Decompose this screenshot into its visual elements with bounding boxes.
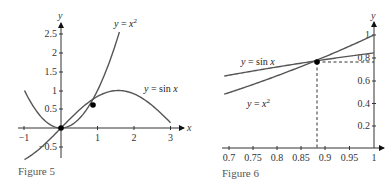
fig6-xtick-070: 0.7: [223, 152, 236, 163]
fig5-x-axis-label: x: [186, 122, 192, 133]
fig5-ytick-1: 1: [52, 85, 57, 96]
fig5-point-origin: [58, 125, 64, 131]
figures-canvas: −1 1 2 3 −0.5 0.5 1 1.5 2 2.5 x y y = x2…: [0, 0, 385, 193]
fig6-xtick-095: 0.95: [341, 152, 359, 163]
fig5-xtick-1: 1: [95, 132, 100, 143]
fig5-curve-x-squared: [25, 32, 120, 128]
fig5-label-sin: y = sin x: [143, 83, 178, 94]
fig5-ytick-2: 2: [52, 47, 57, 58]
fig5-point-intersection: [90, 102, 96, 108]
fig5-xtick-2: 2: [132, 132, 137, 143]
fig6-point-intersection: [314, 59, 320, 65]
fig6-xtick-080: 0.8: [271, 152, 284, 163]
fig6-label-sin: y = sin x: [240, 56, 275, 67]
fig6-caption: Figure 6: [222, 167, 259, 179]
fig5-ytick-05: 0.5: [45, 103, 58, 114]
figure-5: −1 1 2 3 −0.5 0.5 1 1.5 2 2.5 x y y = x2…: [18, 10, 192, 177]
fig5-caption: Figure 5: [18, 165, 55, 177]
fig6-xtick-1: 1: [372, 152, 377, 163]
fig6-y-axis-label: y: [370, 10, 376, 21]
fig5-xtick-neg1: −1: [19, 132, 30, 143]
fig6-ytick-06: 0.6: [358, 75, 371, 86]
fig6-label-x-squared: y = x2: [246, 97, 271, 109]
fig5-label-x-squared: y = x2: [113, 17, 138, 29]
fig6-xtick-085: 0.85: [292, 152, 310, 163]
fig6-xtick-075: 0.75: [244, 152, 262, 163]
fig6-xtick-090: 0.9: [319, 152, 332, 163]
fig6-ytick-04: 0.4: [358, 98, 371, 109]
fig5-y-axis-label: y: [57, 10, 63, 21]
fig6-ytick-02: 0.2: [358, 120, 371, 131]
fig5-ytick-25: 2.5: [45, 28, 58, 39]
fig5-xtick-3: 3: [168, 132, 173, 143]
figure-6: 0.7 0.75 0.8 0.85 0.9 0.95 1 0.2 0.4 0.6…: [222, 10, 384, 179]
fig5-ytick-15: 1.5: [45, 66, 58, 77]
